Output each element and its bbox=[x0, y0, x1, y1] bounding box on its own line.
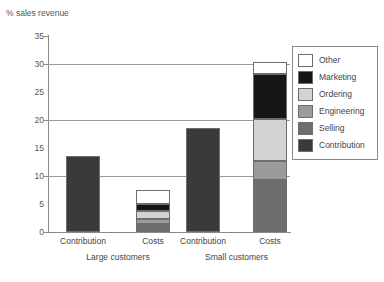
legend-item-contribution[interactable]: Contribution bbox=[298, 137, 373, 154]
legend-label-ordering: Ordering bbox=[319, 90, 352, 99]
x-axis-line bbox=[48, 232, 291, 233]
bar-segment-other[interactable] bbox=[136, 190, 170, 204]
bar-small-contribution[interactable] bbox=[186, 128, 220, 232]
y-tick-30: 30 bbox=[22, 59, 44, 69]
bar-segment-ordering[interactable] bbox=[136, 211, 170, 219]
legend-label-marketing: Marketing bbox=[319, 73, 356, 82]
bar-segment-contribution[interactable] bbox=[66, 156, 100, 232]
y-tick-10: 10 bbox=[22, 171, 44, 181]
y-tick-15: 15 bbox=[22, 143, 44, 153]
legend-swatch-selling bbox=[298, 122, 313, 135]
legend-swatch-other bbox=[298, 54, 313, 67]
legend-label-engineering: Engineering bbox=[319, 107, 364, 116]
group-label-small-customers: Small customers bbox=[205, 252, 268, 262]
legend-swatch-contribution bbox=[298, 139, 313, 152]
plot-area bbox=[48, 36, 290, 232]
legend-swatch-engineering bbox=[298, 105, 313, 118]
legend-label-contribution: Contribution bbox=[319, 141, 365, 150]
legend-label-selling: Selling bbox=[319, 124, 345, 133]
x-tick-label-large-contribution: Contribution bbox=[60, 236, 106, 246]
y-tick-mark-0 bbox=[44, 232, 48, 233]
bar-segment-contribution[interactable] bbox=[186, 128, 220, 232]
chart-screenshot: % sales revenue 05101520253035 Contribut… bbox=[0, 0, 384, 282]
x-tick-label-small-contribution: Contribution bbox=[180, 236, 226, 246]
legend-item-selling[interactable]: Selling bbox=[298, 120, 373, 137]
bar-large-costs[interactable] bbox=[136, 190, 170, 232]
legend-item-ordering[interactable]: Ordering bbox=[298, 86, 373, 103]
y-tick-25: 25 bbox=[22, 87, 44, 97]
bar-segment-ordering[interactable] bbox=[253, 119, 287, 161]
chart-legend: OtherMarketingOrderingEngineeringSelling… bbox=[292, 46, 378, 160]
legend-item-engineering[interactable]: Engineering bbox=[298, 103, 373, 120]
bar-series bbox=[48, 36, 290, 232]
y-tick-35: 35 bbox=[22, 31, 44, 41]
bar-segment-engineering[interactable] bbox=[253, 161, 287, 179]
legend-swatch-ordering bbox=[298, 88, 313, 101]
bar-segment-selling[interactable] bbox=[136, 224, 170, 232]
legend-item-marketing[interactable]: Marketing bbox=[298, 69, 373, 86]
y-axis-tick-labels: 05101520253035 bbox=[20, 36, 44, 232]
x-tick-label-small-costs: Costs bbox=[259, 236, 281, 246]
legend-swatch-marketing bbox=[298, 71, 313, 84]
bar-small-costs[interactable] bbox=[253, 62, 287, 232]
y-tick-0: 0 bbox=[22, 227, 44, 237]
y-axis-title: % sales revenue bbox=[6, 8, 69, 18]
bar-large-contribution[interactable] bbox=[66, 156, 100, 232]
bar-segment-engineering[interactable] bbox=[136, 219, 170, 225]
bar-segment-marketing[interactable] bbox=[253, 74, 287, 120]
bar-segment-marketing[interactable] bbox=[136, 204, 170, 211]
y-tick-20: 20 bbox=[22, 115, 44, 125]
legend-label-other: Other bbox=[319, 56, 340, 65]
y-tick-5: 5 bbox=[22, 199, 44, 209]
bar-segment-selling[interactable] bbox=[253, 180, 287, 232]
group-label-large-customers: Large customers bbox=[86, 252, 149, 262]
bar-segment-other[interactable] bbox=[253, 62, 287, 73]
legend-item-other[interactable]: Other bbox=[298, 52, 373, 69]
x-tick-label-large-costs: Costs bbox=[142, 236, 164, 246]
